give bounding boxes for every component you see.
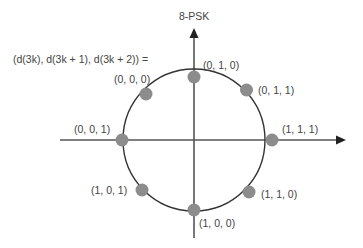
point-label-010: (0, 1, 0) <box>203 59 239 71</box>
constellation-point-100 <box>188 204 201 217</box>
mapping-label: (d(3k), d(3k + 1), d(3k + 2)) = <box>13 53 148 65</box>
point-label-000: (0, 0, 0) <box>114 73 150 85</box>
point-label-101: (1, 0, 1) <box>91 184 127 196</box>
point-label-110: (1, 1, 0) <box>261 188 297 200</box>
constellation-point-001 <box>116 134 129 147</box>
point-label-100: (1, 0, 0) <box>199 217 235 229</box>
point-label-011: (0, 1, 1) <box>258 84 294 96</box>
quadrature-axis-arrow-icon <box>190 28 199 38</box>
diagram-title: 8-PSK <box>179 10 209 22</box>
constellation-point-011 <box>240 84 253 97</box>
point-label-111: (1, 1, 1) <box>282 123 318 135</box>
in-phase-axis-arrow-icon <box>336 136 346 145</box>
constellation-point-110 <box>243 186 256 199</box>
point-label-001: (0, 0, 1) <box>74 123 110 135</box>
constellation-point-101 <box>136 184 149 197</box>
constellation-point-111 <box>266 134 279 147</box>
constellation-point-010 <box>188 71 201 84</box>
constellation-point-000 <box>140 88 153 101</box>
